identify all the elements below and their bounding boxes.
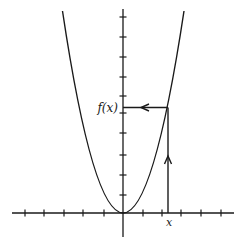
fx-label: f(x): [96, 101, 118, 115]
function-graph-diagram: f(x) x: [0, 0, 242, 244]
x-label: x: [166, 216, 173, 229]
